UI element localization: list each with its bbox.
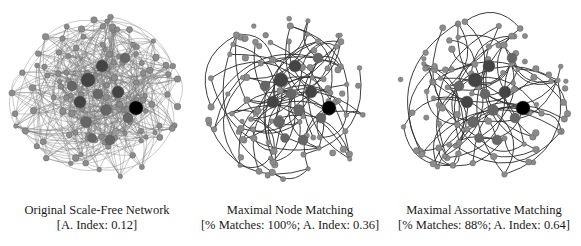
node <box>81 117 92 128</box>
caption-title: Maximal Node Matching <box>193 203 387 218</box>
node <box>526 159 532 165</box>
node <box>511 86 517 92</box>
node <box>490 153 497 160</box>
node <box>336 98 341 103</box>
node <box>446 38 452 44</box>
node <box>516 67 521 72</box>
node <box>496 23 501 28</box>
node <box>19 70 25 76</box>
node <box>488 105 499 116</box>
node <box>480 89 490 99</box>
node <box>151 39 156 44</box>
node <box>549 79 554 84</box>
node <box>306 19 311 24</box>
node <box>269 156 274 161</box>
node <box>357 65 362 70</box>
node <box>507 53 517 63</box>
node <box>165 92 171 98</box>
node <box>311 135 316 140</box>
node <box>317 135 322 140</box>
node <box>250 127 255 132</box>
node <box>240 119 244 123</box>
node <box>325 66 330 71</box>
node <box>297 119 302 124</box>
node <box>310 76 315 81</box>
node <box>486 44 492 50</box>
node <box>522 59 527 64</box>
node <box>157 123 163 129</box>
node <box>34 143 40 149</box>
node <box>445 85 450 90</box>
node <box>157 134 163 140</box>
node <box>91 17 97 23</box>
node <box>562 86 568 92</box>
node <box>439 105 446 112</box>
node <box>344 82 349 87</box>
node <box>88 134 97 143</box>
node <box>502 172 508 178</box>
node <box>501 42 508 49</box>
node <box>205 117 211 123</box>
node <box>255 108 261 114</box>
node <box>287 23 293 29</box>
node <box>29 84 36 91</box>
panel-original-network: Original Scale-Free Network [A. Index: 0… <box>0 0 194 246</box>
node <box>266 140 271 145</box>
node <box>431 80 436 85</box>
node <box>174 103 181 110</box>
node <box>424 115 429 120</box>
node <box>500 70 505 75</box>
node <box>475 134 484 143</box>
node <box>421 61 426 66</box>
node <box>355 83 360 88</box>
node <box>227 52 232 57</box>
node <box>423 50 429 56</box>
node <box>468 73 482 87</box>
node <box>251 24 256 29</box>
node <box>301 152 306 157</box>
node <box>35 63 40 68</box>
node <box>531 74 537 80</box>
node <box>274 117 285 128</box>
node <box>419 151 425 157</box>
node <box>73 45 79 51</box>
node <box>83 160 89 166</box>
node <box>502 136 507 141</box>
node <box>483 60 495 72</box>
node <box>43 155 49 161</box>
network-graph-node-matching <box>193 0 387 200</box>
node <box>546 72 552 78</box>
node <box>470 160 476 166</box>
node <box>555 78 560 83</box>
node <box>316 113 326 123</box>
node <box>422 56 427 61</box>
node <box>456 21 460 25</box>
node <box>35 51 41 57</box>
nodes <box>398 19 571 178</box>
node <box>55 71 61 77</box>
node <box>56 50 62 56</box>
node <box>240 136 246 142</box>
node <box>263 32 269 38</box>
node <box>335 67 341 73</box>
node <box>311 47 317 53</box>
node <box>347 157 352 162</box>
node <box>30 107 37 114</box>
node <box>485 118 492 125</box>
node <box>133 80 139 86</box>
node <box>123 113 133 123</box>
node <box>208 104 214 110</box>
node <box>449 66 455 72</box>
node <box>64 70 69 75</box>
node <box>140 70 146 76</box>
node <box>564 79 569 84</box>
node <box>211 126 217 132</box>
node <box>462 19 468 25</box>
node <box>79 152 84 157</box>
node <box>208 76 213 81</box>
node <box>93 89 103 99</box>
node <box>69 110 76 117</box>
node <box>96 60 108 72</box>
node <box>274 73 288 87</box>
node <box>464 126 470 132</box>
